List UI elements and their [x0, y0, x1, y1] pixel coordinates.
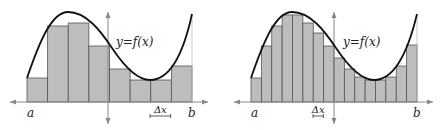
y-axis-down-arrow-icon — [332, 118, 337, 124]
x-axis-left-arrow-icon — [10, 100, 16, 105]
riemann-rectangle — [130, 80, 151, 102]
y-axis-down-arrow-icon — [106, 118, 111, 124]
riemann-rectangle — [355, 77, 365, 102]
riemann-rectangle — [89, 46, 110, 102]
delta-x-label: Δx — [311, 104, 325, 115]
delta-x-label: Δx — [153, 104, 167, 115]
x-axis-right-arrow-icon — [427, 100, 433, 105]
riemann-rectangle — [27, 78, 48, 102]
a-label: a — [251, 106, 258, 120]
riemann-rectangle — [386, 77, 396, 102]
riemann-rectangle — [396, 66, 406, 102]
riemann-rectangle — [376, 80, 386, 102]
b-label: b — [188, 106, 196, 120]
panel-left-8-rectangles: y=f(x)abΔx — [10, 12, 208, 124]
riemann-sum-figure: y=f(x)abΔx y=f(x)abΔx — [0, 0, 446, 130]
y-axis-up-arrow-icon — [332, 12, 337, 18]
x-axis-right-arrow-icon — [202, 100, 208, 105]
curve-label: y=f(x) — [115, 35, 154, 49]
riemann-rectangle — [68, 23, 89, 102]
riemann-rectangle — [171, 66, 192, 102]
riemann-rectangle — [313, 33, 323, 102]
riemann-rectangle — [272, 26, 282, 102]
curve-label: y=f(x) — [342, 35, 381, 49]
riemann-rectangle — [282, 15, 292, 102]
riemann-rectangle — [251, 78, 261, 102]
riemann-rectangle — [407, 45, 417, 102]
riemann-rectangle — [334, 58, 344, 102]
panel-right-16-rectangles: y=f(x)abΔx — [234, 12, 433, 124]
riemann-rectangle — [303, 23, 313, 102]
riemann-rectangle — [110, 69, 131, 102]
riemann-rectangle — [365, 80, 375, 102]
riemann-rectangle — [293, 15, 303, 102]
riemann-rectangle — [344, 69, 354, 102]
riemann-rectangle — [324, 46, 334, 102]
riemann-rectangle — [48, 26, 69, 102]
x-axis-left-arrow-icon — [234, 100, 240, 105]
a-label: a — [27, 106, 34, 120]
y-axis-up-arrow-icon — [106, 12, 111, 18]
b-label: b — [413, 106, 421, 120]
riemann-rectangle — [151, 80, 172, 102]
riemann-rectangle — [261, 46, 271, 102]
